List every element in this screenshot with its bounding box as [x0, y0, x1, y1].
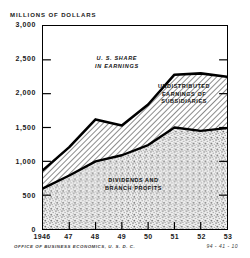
plot-area: U. S. SHARE IN EARNINGS UNDISTRIBUTED EA… [42, 25, 228, 230]
annotation-dividends-label: DIVIDENDS AND BRANCH PROFITS [105, 177, 162, 192]
y-axis-label: 500 [2, 192, 36, 199]
y-axis-label: 1,500 [2, 124, 36, 131]
y-axis-label: 1,000 [2, 158, 36, 165]
y-axis-label: 2,500 [2, 55, 36, 62]
x-axis-label: 53 [224, 233, 233, 240]
x-axis-label: 50 [144, 233, 153, 240]
x-axis-label: 52 [197, 233, 206, 240]
y-axis-label: 2,000 [2, 89, 36, 96]
footer-code: 94 - 41 - 10 [206, 243, 238, 249]
annotation-total-label: U. S. SHARE IN EARNINGS [95, 54, 139, 70]
y-axis-title: MILLIONS OF DOLLARS [10, 12, 96, 18]
y-axis-label: 0 [2, 226, 36, 233]
x-axis-label: 51 [171, 233, 180, 240]
x-axis-label: 1946 [33, 233, 50, 240]
x-axis-label: 48 [91, 233, 100, 240]
chart-figure: MILLIONS OF DOLLARS [0, 0, 250, 258]
footer-source: OFFICE OF BUSINESS ECONOMICS, U. S. D. C… [14, 244, 135, 249]
x-axis-label: 47 [64, 233, 73, 240]
y-axis-label: 3,000 [2, 21, 36, 28]
annotation-undistributed-label: UNDISTRIBUTED EARNINGS OF SUBSIDIARIES [158, 83, 210, 106]
x-axis-label: 49 [117, 233, 126, 240]
